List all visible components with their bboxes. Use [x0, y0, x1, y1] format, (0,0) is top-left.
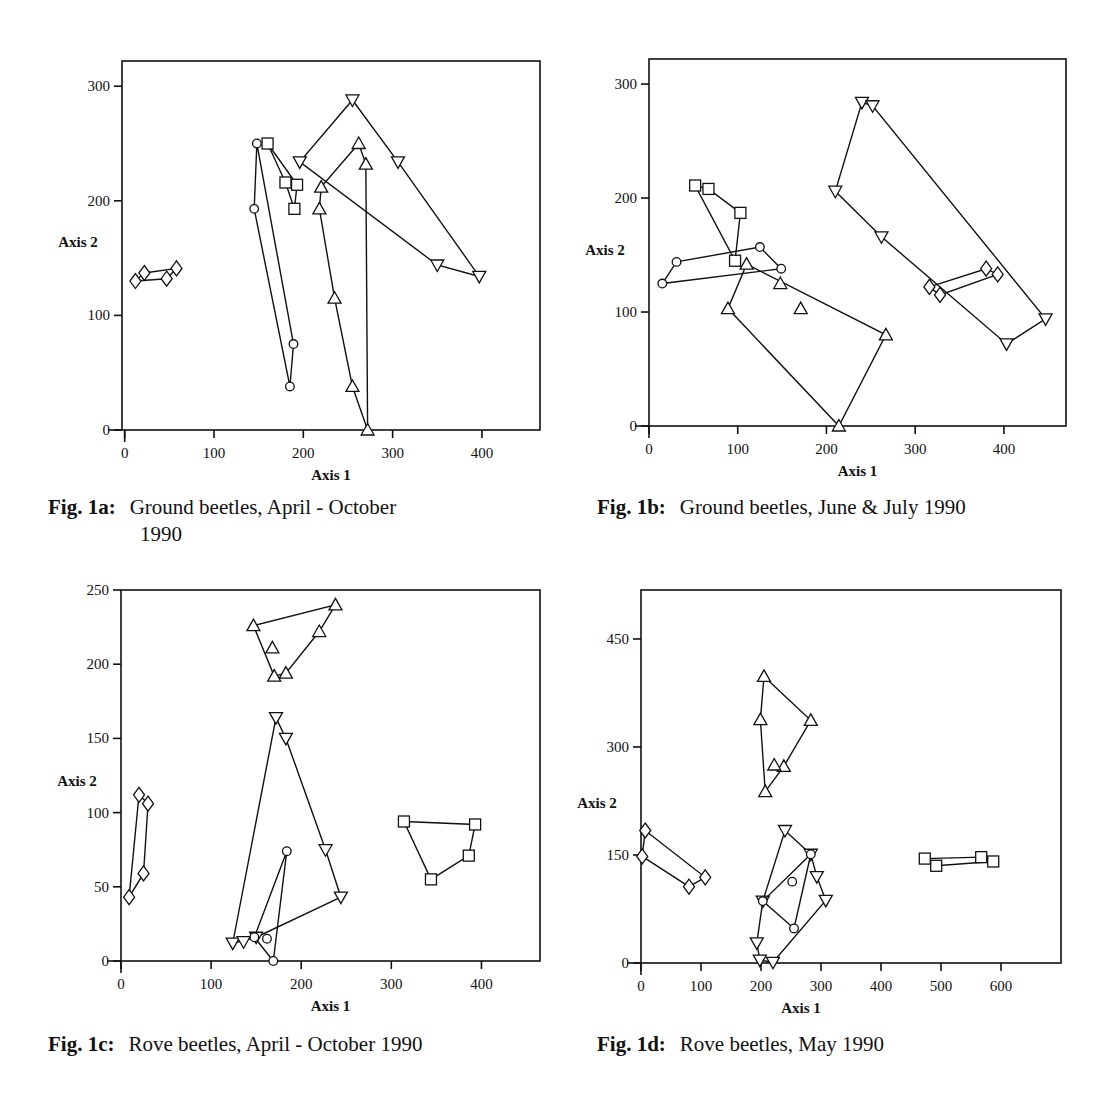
triangle-up-marker-icon: [758, 670, 771, 682]
x-tick-label: 300: [381, 445, 404, 461]
triangle-down-marker-icon: [237, 937, 250, 949]
circle-marker-icon: [253, 139, 262, 148]
hull-outline: [695, 186, 740, 261]
y-tick-label: 100: [87, 805, 110, 821]
x-tick-label: 300: [810, 978, 833, 994]
caption-fig-1b: Fig. 1b:Ground beetles, June & July 1990: [597, 494, 966, 521]
circle-marker-icon: [756, 243, 765, 252]
y-tick-label: 0: [630, 418, 638, 434]
diamond-marker-icon: [161, 271, 172, 286]
x-tick-label: 400: [870, 978, 893, 994]
series-triangle-up-loose: [774, 277, 807, 314]
circle-marker-icon: [790, 924, 799, 933]
x-axis: 0100200300400500600Axis 1: [637, 963, 1012, 1016]
hull-outline: [233, 718, 341, 944]
circle-marker-icon: [289, 340, 298, 349]
hull-outline: [662, 247, 781, 283]
diamond-marker-icon: [134, 787, 145, 802]
y-tick-label: 250: [87, 582, 110, 598]
caption-text-continued: 1990: [48, 521, 396, 548]
square-marker-icon: [931, 860, 942, 871]
x-tick-label: 200: [292, 445, 315, 461]
triangle-down-marker-icon: [1000, 339, 1013, 351]
circle-marker-icon: [759, 897, 768, 906]
hull-outline: [319, 144, 367, 430]
triangle-down-marker-icon: [1039, 314, 1052, 326]
square-marker-icon: [919, 853, 930, 864]
hull-outline: [268, 144, 297, 209]
x-tick-label: 0: [121, 445, 129, 461]
diamond-marker-icon: [684, 879, 695, 894]
series-triangle-up: [721, 258, 892, 431]
series-diamond: [130, 261, 182, 289]
square-marker-icon: [289, 203, 300, 214]
caption-fig-1a: Fig. 1a:Ground beetles, April - October …: [48, 494, 396, 548]
x-tick-label: 500: [930, 978, 953, 994]
caption-text: Rove beetles, April - October 1990: [128, 1032, 422, 1056]
figure-label: Fig. 1b:: [597, 495, 666, 519]
figure-label: Fig. 1a:: [48, 495, 116, 519]
x-tick-label: 400: [471, 445, 494, 461]
plot-frame: [121, 590, 540, 961]
triangle-down-marker-icon: [269, 713, 282, 725]
caption-text: Rove beetles, May 1990: [680, 1032, 884, 1056]
y-axis: 0150300450Axis 2: [577, 631, 641, 971]
triangle-down-marker-icon: [391, 157, 404, 169]
hull-outline: [254, 851, 286, 961]
diamond-marker-icon: [139, 266, 150, 281]
x-axis-title: Axis 1: [781, 1000, 821, 1016]
x-tick-label: 200: [290, 976, 313, 992]
series-diamond: [924, 261, 1003, 302]
square-marker-icon: [703, 183, 714, 194]
y-tick-label: 200: [87, 656, 110, 672]
series-square: [919, 852, 998, 872]
caption-fig-1d: Fig. 1d:Rove beetles, May 1990: [597, 1031, 884, 1058]
circle-marker-icon: [672, 258, 681, 267]
circle-marker-icon: [282, 847, 291, 856]
triangle-down-marker-icon: [319, 845, 332, 857]
circle-marker-icon: [250, 205, 259, 214]
x-axis: 0100200300400Axis 1: [645, 426, 1015, 479]
square-marker-icon: [280, 177, 291, 188]
square-marker-icon: [262, 138, 273, 149]
circle-marker-icon: [263, 934, 272, 943]
figure-1b: 0100200300400Axis 10100200300Axis 2: [569, 49, 1076, 496]
x-axis: 0100200300400Axis 1: [121, 430, 493, 483]
triangle-up-marker-icon: [759, 785, 772, 797]
x-axis: 0100200300400Axis 1: [117, 961, 492, 1014]
y-tick-label: 300: [607, 739, 630, 755]
series-triangle-down: [829, 97, 1052, 350]
square-marker-icon: [988, 856, 999, 867]
square-marker-icon: [425, 874, 436, 885]
hull-outline: [760, 676, 810, 791]
diamond-marker-icon: [637, 849, 648, 864]
series-triangle-down-loose: [237, 937, 250, 949]
plot-frame: [641, 590, 1061, 963]
circle-marker-icon: [658, 279, 667, 288]
x-tick-label: 0: [645, 441, 653, 457]
x-tick-label: 600: [990, 978, 1013, 994]
x-tick-label: 400: [470, 976, 493, 992]
square-marker-icon: [735, 207, 746, 218]
square-marker-icon: [292, 179, 303, 190]
x-axis-title: Axis 1: [311, 998, 351, 1014]
circle-marker-icon: [788, 877, 797, 886]
circle-marker-icon: [286, 382, 295, 391]
triangle-down-marker-icon: [750, 938, 763, 950]
x-tick-label: 200: [750, 978, 773, 994]
x-tick-label: 100: [200, 976, 223, 992]
series-triangle-down: [226, 713, 347, 950]
diamond-marker-icon: [981, 261, 992, 276]
circle-marker-icon: [250, 933, 259, 942]
figure-label: Fig. 1d:: [597, 1032, 666, 1056]
x-tick-label: 400: [993, 441, 1016, 457]
series-triangle-up-loose: [768, 758, 781, 770]
y-tick-label: 150: [607, 847, 630, 863]
y-axis: 050100150200250Axis 2: [57, 582, 121, 969]
series-triangle-up: [313, 137, 374, 435]
x-tick-label: 0: [117, 976, 125, 992]
circle-marker-icon: [807, 850, 816, 859]
y-axis-title: Axis 2: [58, 234, 98, 250]
series-circle: [759, 850, 816, 933]
y-tick-label: 450: [607, 631, 630, 647]
